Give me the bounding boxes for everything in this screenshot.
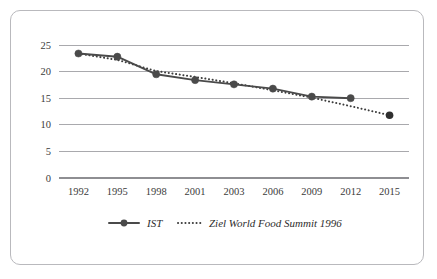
data-point-ist: [192, 77, 199, 84]
legend-marker-dot-icon: [121, 220, 128, 227]
data-point-ist: [269, 85, 276, 92]
y-tick-label: 10: [41, 119, 52, 130]
x-tick-label: 1992: [68, 186, 89, 197]
series-markers-ziel: [386, 111, 394, 119]
x-tick-label: 2003: [224, 186, 245, 197]
data-point-ist: [308, 93, 315, 100]
x-tick-label: 2006: [262, 186, 283, 197]
data-point-ist: [75, 50, 82, 57]
grid-lines: [59, 45, 409, 178]
data-point-ist: [153, 71, 160, 78]
x-tick-label: 2012: [340, 186, 361, 197]
y-tick-label: 0: [46, 173, 51, 184]
x-tick-label: 2001: [185, 186, 206, 197]
chart-canvas: 0510152025 19921995199820012003200620092…: [11, 11, 425, 266]
legend-item-ziel[interactable]: Ziel World Food Summit 1996: [178, 217, 342, 229]
data-point-ist: [347, 95, 354, 102]
y-tick-label: 20: [41, 66, 52, 77]
y-tick-label: 5: [46, 146, 51, 157]
legend-item-ist[interactable]: IST: [109, 217, 163, 229]
x-tick-label: 2015: [379, 186, 400, 197]
data-point-ist: [230, 81, 237, 88]
data-point-ist: [114, 53, 121, 60]
x-tick-label: 1998: [146, 186, 167, 197]
chart-figure-frame: 0510152025 19921995199820012003200620092…: [10, 10, 424, 265]
y-axis-tick-labels: 0510152025: [41, 40, 52, 184]
x-tick-label: 2009: [301, 186, 322, 197]
x-tick-label: 1995: [107, 186, 128, 197]
x-axis-tick-labels: 199219951998200120032006200920122015: [68, 186, 400, 197]
cropped-caption-sliver: [110, 0, 340, 5]
chart-legend: IST Ziel World Food Summit 1996: [109, 217, 342, 229]
legend-label-ist: IST: [146, 217, 163, 229]
line-chart: 0510152025 19921995199820012003200620092…: [11, 11, 425, 266]
legend-label-ziel-world-food-summit-1996: Ziel World Food Summit 1996: [209, 217, 342, 229]
data-point-ziel-endpoint: [386, 111, 394, 119]
y-tick-label: 15: [41, 93, 52, 104]
y-tick-label: 25: [41, 40, 52, 51]
series-markers-ist: [75, 50, 354, 102]
